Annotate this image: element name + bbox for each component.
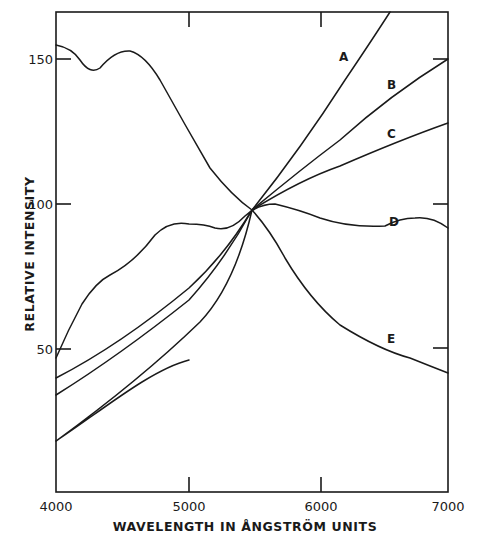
x-tick-label-4000: 4000 bbox=[39, 499, 72, 514]
curve-label-e: E bbox=[387, 332, 395, 346]
x-tick-label-5000: 5000 bbox=[172, 499, 205, 514]
curve-label-d: D bbox=[389, 215, 399, 229]
curve-label-a: A bbox=[339, 50, 349, 64]
spectral-intensity-chart: 4000 5000 6000 7000 50 100 150 WAVELENGT… bbox=[0, 0, 486, 542]
y-tick-label-50: 50 bbox=[36, 342, 53, 357]
curve-label-c: C bbox=[387, 127, 396, 141]
curve-c bbox=[56, 123, 448, 395]
y-tick-label-150: 150 bbox=[28, 52, 53, 67]
x-axis-title: WAVELENGTH IN ÅNGSTRÖM UNITS bbox=[113, 519, 378, 534]
y-ticks bbox=[56, 59, 448, 349]
y-axis-title: RELATIVE INTENSITY bbox=[22, 176, 37, 332]
x-tick-label-6000: 6000 bbox=[304, 499, 337, 514]
curve-label-b: B bbox=[387, 78, 396, 92]
curve-a bbox=[56, 12, 390, 441]
x-ticks bbox=[189, 12, 321, 492]
x-tick-label-7000: 7000 bbox=[431, 499, 464, 514]
